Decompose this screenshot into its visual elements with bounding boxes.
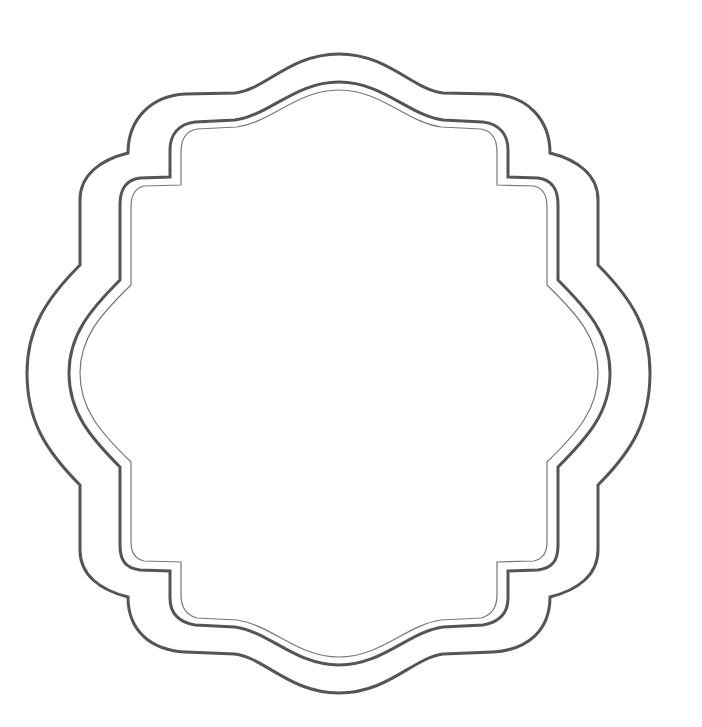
middle-border	[69, 82, 610, 665]
ornate-frame	[0, 0, 702, 727]
outer-border	[27, 54, 650, 693]
